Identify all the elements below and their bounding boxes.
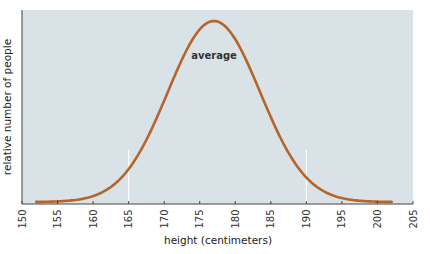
x-tick-label: 205 — [408, 209, 419, 228]
x-tick-label: 180 — [230, 209, 241, 228]
y-axis-title: relative number of people — [1, 39, 13, 175]
x-tick-label: 195 — [336, 209, 347, 228]
x-tick-label: 170 — [159, 209, 170, 228]
x-tick-label: 150 — [17, 209, 28, 228]
x-tick-label: 160 — [88, 209, 99, 228]
average-annotation: average — [191, 50, 237, 61]
x-tick-label: 185 — [265, 209, 276, 228]
height-distribution-chart: 150155160165170175180185190195200205 ave… — [0, 0, 430, 254]
x-tick-label: 155 — [52, 209, 63, 228]
x-tick-label: 190 — [301, 209, 312, 228]
x-ticks: 150155160165170175180185190195200205 — [17, 201, 419, 229]
x-tick-label: 165 — [123, 209, 134, 228]
plot-background — [22, 10, 413, 204]
x-tick-label: 200 — [372, 209, 383, 228]
x-tick-label: 175 — [194, 209, 205, 228]
x-axis-title: height (centimeters) — [164, 234, 272, 246]
